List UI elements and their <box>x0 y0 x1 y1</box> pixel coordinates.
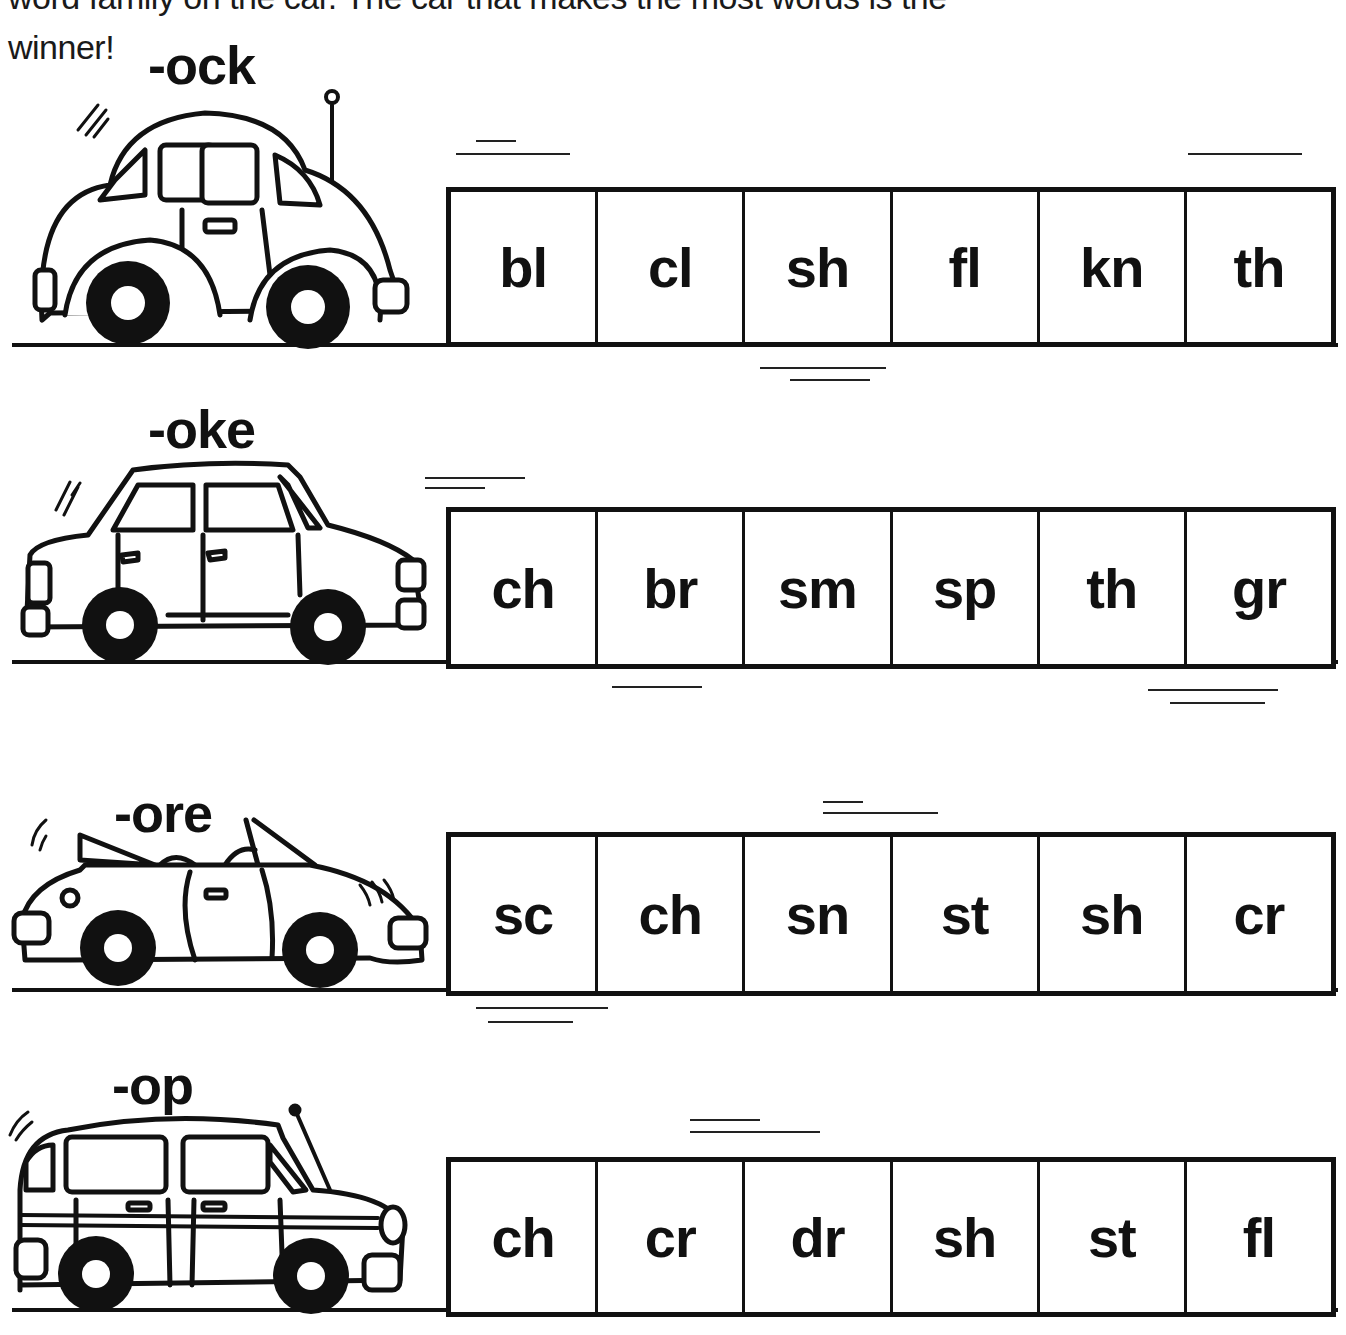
onset-box: fl <box>893 192 1040 342</box>
onset-box: bl <box>451 192 598 342</box>
speed-line <box>823 801 863 803</box>
onset-box: st <box>893 837 1040 991</box>
speed-line <box>1170 702 1265 704</box>
onset-box: ch <box>451 512 598 664</box>
speed-line <box>488 1021 573 1023</box>
onset-box: sh <box>1040 837 1187 991</box>
onset-box: sh <box>745 192 892 342</box>
onset-boxes: bl cl sh fl kn th <box>446 187 1336 347</box>
onset-box: sc <box>451 837 598 991</box>
convertible-car-icon <box>10 810 435 995</box>
onset-boxes: sc ch sn st sh cr <box>446 832 1336 996</box>
speed-line <box>425 477 525 479</box>
word-family-label: -oke <box>148 402 255 456</box>
onset-box: sn <box>745 837 892 991</box>
speed-line <box>1148 689 1278 691</box>
speed-line <box>1188 153 1302 155</box>
onset-box: th <box>1187 192 1331 342</box>
onset-box: fl <box>1187 1162 1331 1312</box>
sedan-car-icon <box>18 455 433 665</box>
onset-boxes: ch cr dr sh st fl <box>446 1157 1336 1317</box>
onset-box: th <box>1040 512 1187 664</box>
speed-line <box>760 367 886 369</box>
speed-line <box>425 487 485 489</box>
onset-box: sm <box>745 512 892 664</box>
onset-box: cr <box>598 1162 745 1312</box>
onset-box: ch <box>598 837 745 991</box>
instructions-line-1: word family on the car. The car that mak… <box>8 0 947 17</box>
onset-box: cl <box>598 192 745 342</box>
speed-line <box>456 153 570 155</box>
onset-box: st <box>1040 1162 1187 1312</box>
speed-line <box>790 379 870 381</box>
speed-line <box>690 1131 820 1133</box>
speed-line <box>612 686 702 688</box>
instructions-line-2: winner! <box>8 28 114 67</box>
onset-box: gr <box>1187 512 1331 664</box>
speed-line <box>476 140 516 142</box>
onset-box: kn <box>1040 192 1187 342</box>
onset-box: sp <box>893 512 1040 664</box>
speed-line <box>476 1007 608 1009</box>
wagon-car-icon <box>8 1100 408 1315</box>
beetle-car-icon <box>30 75 420 350</box>
onset-box: cr <box>1187 837 1331 991</box>
onset-box: sh <box>893 1162 1040 1312</box>
onset-box: br <box>598 512 745 664</box>
onset-boxes: ch br sm sp th gr <box>446 507 1336 669</box>
speed-line <box>823 812 938 814</box>
speed-line <box>690 1119 760 1121</box>
onset-box: ch <box>451 1162 598 1312</box>
onset-box: dr <box>745 1162 892 1312</box>
